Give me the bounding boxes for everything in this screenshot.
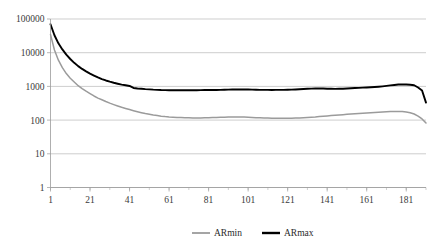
x-tick-label: 21 bbox=[85, 195, 95, 205]
x-tick-label: 121 bbox=[281, 195, 296, 205]
y-tick-label: 100000 bbox=[16, 14, 45, 24]
y-tick-label: 10000 bbox=[21, 48, 45, 58]
x-tick-label: 181 bbox=[399, 195, 414, 205]
y-tick-label: 1000 bbox=[26, 82, 45, 92]
x-tick-label: 161 bbox=[360, 195, 375, 205]
y-tick-label: 100 bbox=[30, 116, 45, 126]
x-tick-label: 141 bbox=[320, 195, 335, 205]
gridlines bbox=[51, 19, 427, 188]
series-line-armin bbox=[51, 34, 427, 123]
x-tick-label: 1 bbox=[48, 195, 53, 205]
y-tick-label: 10 bbox=[35, 149, 45, 159]
legend-label-armin: ARmin bbox=[214, 228, 242, 238]
series-line-armax bbox=[51, 24, 427, 102]
chart-container: 100000100001000100101 121416181101121141… bbox=[0, 0, 441, 252]
log-line-chart: 100000100001000100101 121416181101121141… bbox=[0, 0, 441, 252]
x-tick-label: 81 bbox=[204, 195, 214, 205]
y-axis-ticks bbox=[47, 19, 51, 188]
x-tick-label: 101 bbox=[241, 195, 256, 205]
y-axis-tick-labels: 100000100001000100101 bbox=[16, 14, 45, 193]
chart-legend: ARminARmax bbox=[192, 228, 314, 238]
x-tick-label: 61 bbox=[164, 195, 174, 205]
figure-caption bbox=[8, 245, 148, 252]
x-axis-tick-labels: 121416181101121141161181 bbox=[48, 195, 413, 205]
series-layer bbox=[51, 24, 427, 123]
legend-label-armax: ARmax bbox=[284, 228, 314, 238]
y-tick-label: 1 bbox=[40, 183, 45, 193]
x-tick-label: 41 bbox=[125, 195, 135, 205]
